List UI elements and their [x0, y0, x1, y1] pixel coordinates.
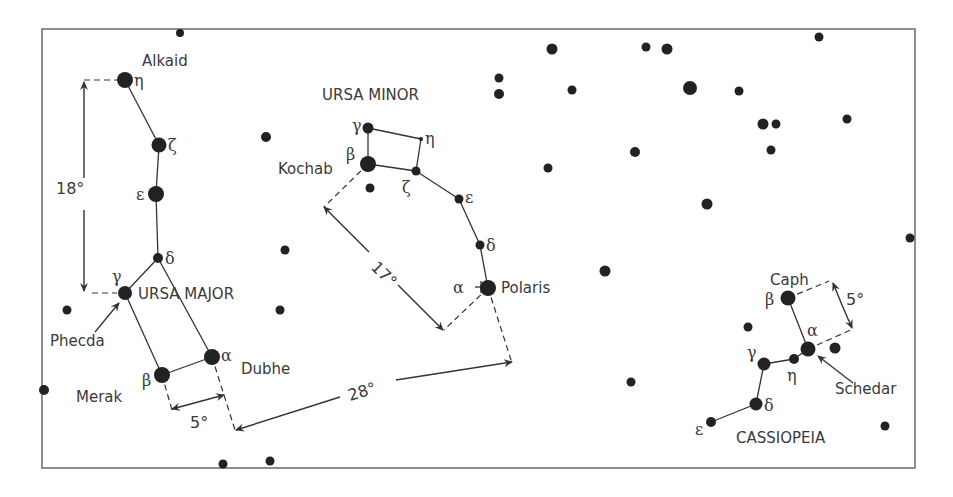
field-star [600, 266, 611, 277]
measurement-arrow [198, 395, 224, 402]
cassiopeia-star-gamma [758, 358, 771, 371]
cassiopeia-label: CASSIOPEIA [736, 429, 826, 447]
ursa-major-greek-label: ζ [168, 136, 177, 155]
ursa-major-star-eta-alkaid [117, 72, 133, 88]
ursa-major-star-zeta [152, 138, 167, 153]
ursa-minor-greek-label: β [346, 145, 355, 164]
ursa-minor-greek-label: η [425, 129, 435, 148]
field-star [627, 378, 636, 387]
field-star [662, 44, 673, 55]
field-star [366, 184, 375, 193]
field-star [39, 385, 49, 395]
star-name-schedar: Schedar [835, 380, 897, 398]
ursa-minor-star-delta [476, 241, 485, 250]
field-star [758, 119, 769, 130]
ursa-minor-star-eps [455, 195, 464, 204]
cassiopeia-star-eps [706, 417, 716, 427]
schedar-pointer [818, 356, 853, 383]
ursa-major-line [158, 258, 212, 357]
measurement-arrow [398, 285, 443, 330]
field-star [547, 44, 558, 55]
measurement-arrow [396, 362, 512, 380]
ursa-major-greek-label: η [134, 71, 144, 90]
field-star [906, 234, 915, 243]
ursa-major-star-alpha-dubhe [204, 349, 220, 365]
ursa-minor-line [368, 128, 421, 139]
pointer-arrows [95, 303, 853, 383]
field-star [735, 87, 744, 96]
field-star [843, 115, 852, 124]
angular-measurements [84, 82, 852, 430]
ursa-major-label: URSA MAJOR [138, 285, 234, 303]
ursa-minor-line [416, 139, 421, 171]
cassiopeia-line [711, 404, 756, 422]
ursa-minor-greek-label: ζ [402, 178, 411, 197]
ursa-minor-star-zeta [412, 167, 421, 176]
field-star [219, 460, 228, 469]
dashed-guide-line [444, 288, 488, 330]
star-name-kochab: Kochab [278, 160, 333, 178]
ursa-minor-star-beta-kochab [360, 156, 376, 172]
ursa-major-greek-label: α [221, 346, 232, 365]
cassiopeia-greek-label: β [765, 290, 774, 309]
field-star [266, 457, 275, 466]
field-star [630, 147, 640, 157]
ursa-major-greek-label: δ [165, 249, 175, 268]
field-star [683, 81, 697, 95]
star-name-phecda: Phecda [50, 332, 105, 350]
measurement-arrow [172, 402, 198, 409]
ursa-minor-label: URSA MINOR [322, 86, 419, 104]
ursa-minor-line [416, 171, 459, 199]
constellation-lines [125, 80, 808, 422]
field-star [772, 120, 781, 129]
cassiopeia-star-delta [750, 398, 763, 411]
ursa-major-star-eps [148, 186, 164, 202]
field-star [281, 246, 290, 255]
field-star [495, 74, 504, 83]
cassiopeia-greek-label: γ [747, 343, 757, 362]
field-star [276, 306, 285, 315]
dashed-guides [84, 80, 853, 430]
measurement-label: 28° [346, 378, 379, 404]
ursa-minor-greek-label: ε [465, 188, 473, 207]
measurement-arrow [236, 397, 340, 430]
ursa-minor-greek-label: γ [352, 116, 362, 135]
ursa-major-star-gamma-phecda [118, 286, 132, 300]
text-labels: ηζεδγβαURSA MAJORγηβζεδαURSA MINORβαηγδε… [50, 52, 897, 447]
dashed-guide-line [212, 357, 235, 430]
cassiopeia-greek-label: δ [764, 396, 774, 415]
measurement-label: 5° [190, 413, 208, 432]
measurement-arrow [833, 283, 842, 305]
star-chart: ηζεδγβαURSA MAJORγηβζεδαURSA MINORβαηγδε… [0, 0, 953, 497]
field-star [744, 323, 753, 332]
field-star [642, 43, 651, 52]
star-name-caph: Caph [770, 271, 809, 289]
ursa-minor-star-alpha-polaris [480, 280, 496, 296]
star-name-dubhe: Dubhe [241, 360, 290, 378]
cassiopeia-star-alpha-schedar [801, 342, 816, 357]
field-star [63, 306, 72, 315]
ursa-minor-star-gamma [363, 123, 374, 134]
ursa-major-line [125, 293, 162, 375]
measurement-label: 18° [56, 179, 84, 198]
field-star [702, 199, 713, 210]
star-name-alkaid: Alkaid [142, 52, 188, 70]
field-star [830, 343, 841, 354]
field-star [881, 422, 890, 431]
ursa-minor-star-eta [419, 137, 423, 141]
phecda-pointer [95, 303, 119, 332]
ursa-minor-greek-label: α [453, 278, 464, 297]
measurement-label: 17° [367, 257, 400, 290]
cassiopeia-greek-label: ε [695, 420, 703, 439]
ursa-major-line [156, 194, 158, 258]
constellation-stars [117, 72, 816, 427]
star-name-polaris: Polaris [501, 279, 550, 297]
ursa-major-star-beta-merak [154, 367, 170, 383]
ursa-major-greek-label: ε [136, 185, 144, 204]
field-star [544, 164, 553, 173]
field-star [767, 146, 776, 155]
ursa-major-greek-label: γ [112, 267, 122, 286]
dashed-guide-line [488, 288, 512, 363]
measurement-arrow [324, 207, 369, 252]
ursa-minor-greek-label: δ [486, 236, 496, 255]
